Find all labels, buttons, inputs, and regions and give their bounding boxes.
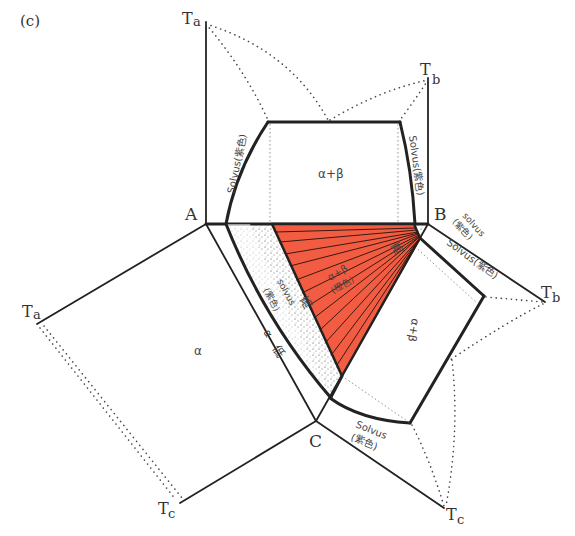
solvus-label-near-b: solvus (紫色): [451, 211, 488, 242]
phase-label-alpha-beta-right: α+β: [405, 317, 422, 342]
ta-left-axis: [37, 224, 206, 324]
vertex-b-label: B: [434, 204, 447, 224]
svg-text:T: T: [22, 302, 33, 321]
phase-label-alpha-beta-top: α+β: [318, 167, 344, 181]
svg-text:c: c: [457, 512, 464, 527]
svg-text:b: b: [552, 290, 560, 305]
tb-right-label: T b: [541, 283, 560, 305]
ta-left-label: T a: [22, 302, 41, 322]
svg-text:a: a: [33, 307, 41, 322]
ta-top-label: T a: [182, 9, 201, 29]
ternary-phase-diagram: (c): [0, 0, 575, 536]
svg-text:b: b: [432, 72, 440, 87]
svg-text:c: c: [168, 506, 175, 521]
upper-ab-face: [206, 22, 428, 224]
tc-right-label: T c: [446, 505, 464, 527]
panel-label: (c): [20, 12, 40, 30]
phase-label-alpha-left: α: [194, 344, 202, 358]
svg-text:T: T: [182, 9, 193, 28]
tc-left-axis: [180, 421, 316, 503]
svg-text:T: T: [446, 505, 457, 524]
solvus-label-right-edge: Solvus(紫色): [445, 236, 501, 281]
vertex-a-label: A: [184, 204, 198, 224]
tc-left-label: T c: [158, 499, 175, 521]
svg-text:a: a: [193, 14, 201, 29]
tb-top-label: T b: [420, 60, 440, 87]
vertex-c-label: C: [309, 431, 322, 451]
svg-text:T: T: [420, 60, 431, 79]
solvus-curve-bottom: [330, 398, 410, 423]
svg-text:T: T: [541, 283, 552, 302]
